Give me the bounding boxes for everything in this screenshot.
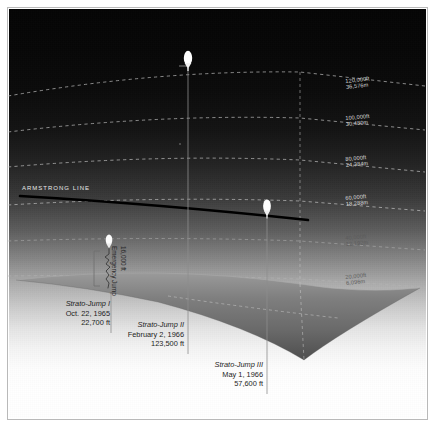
altitude-label-120000ft: 120,000ft 36,576m — [345, 75, 370, 90]
callout-altitude: 22,700 ft — [46, 318, 110, 328]
callout-title: Strato-Jump I — [46, 299, 110, 309]
altitude-grid-lines — [8, 72, 425, 287]
altitude-label-20000ft: 20,000ft 6,096m — [345, 272, 367, 287]
callout-strato-jump-3: Strato-Jump III May 1, 1966 57,600 ft — [196, 360, 263, 389]
callout-altitude: 123,500 ft — [118, 339, 184, 349]
figure-plate: 120,000ft 36,576m 100,000ft 30,480m 80,0… — [7, 7, 428, 420]
altitude-label-40000ft: 40,000ft 12,192m — [345, 233, 368, 248]
callout-strato-jump-2: Strato-Jump II February 2, 1966 123,500 … — [118, 320, 184, 349]
balloon-marker-jump-2 — [184, 51, 192, 71]
callout-altitude: 57,600 ft — [196, 379, 263, 389]
altitude-label-80000ft: 80,000ft 24,384m — [345, 154, 368, 169]
callout-date: May 1, 1966 — [196, 370, 263, 380]
diagram-vector-layer — [8, 8, 425, 417]
callout-title: Strato-Jump II — [118, 320, 184, 330]
altitude-label-100000ft: 100,000ft 30,480m — [345, 113, 370, 128]
callout-title: Strato-Jump III — [196, 360, 263, 370]
altitude-label-60000ft: 60,000ft 18,288m — [345, 193, 368, 208]
armstrong-line-label: ARMSTRONG LINE — [22, 185, 90, 191]
emergency-jump-title: Emergency Jump — [110, 246, 118, 296]
callout-strato-jump-1: Strato-Jump I Oct. 22, 1965 22,700 ft — [46, 299, 110, 328]
emergency-jump-altitude: 16,000 ft — [119, 246, 127, 271]
callout-date: February 2, 1966 — [118, 330, 184, 340]
figure-canvas: 120,000ft 36,576m 100,000ft 30,480m 80,0… — [0, 0, 433, 425]
descent-figure-marker — [179, 143, 181, 145]
callout-date: Oct. 22, 1965 — [46, 309, 110, 319]
